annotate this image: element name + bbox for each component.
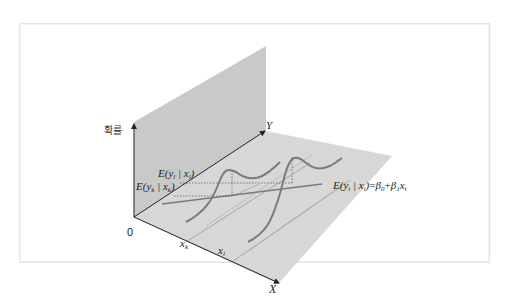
x-tick-k: xk bbox=[180, 238, 188, 251]
regression-3d-diagram bbox=[0, 0, 508, 298]
probability-axis-label: 확률 bbox=[104, 126, 122, 136]
y-axis-label: Y bbox=[266, 120, 272, 131]
expectation-label-k: E(yk | xk) bbox=[136, 181, 175, 194]
regression-equation: E(yi | xi)=β0+β1xi bbox=[333, 180, 407, 193]
x-tick-l: xl bbox=[218, 245, 225, 258]
x-axis-label: X bbox=[269, 283, 276, 295]
origin-label: 0 bbox=[127, 227, 133, 238]
